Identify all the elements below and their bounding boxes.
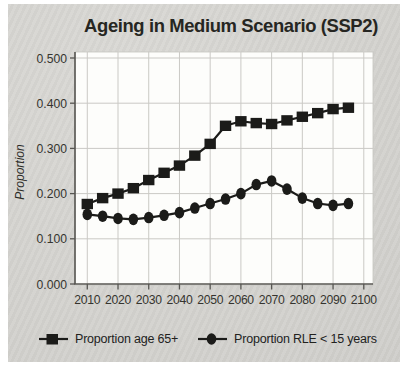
y-tick-label: 0.500 <box>37 52 68 66</box>
circle-marker <box>298 192 308 204</box>
square-marker <box>281 115 292 125</box>
square-marker <box>143 175 154 185</box>
square-marker <box>112 188 123 198</box>
legend-label-rle15: Proportion RLE < 15 years <box>234 332 377 346</box>
circle-marker-icon <box>197 332 228 346</box>
square-marker <box>343 103 354 113</box>
square-marker <box>189 150 200 160</box>
circle-marker <box>205 198 215 210</box>
circle-marker <box>267 175 277 187</box>
x-tick-label: 2050 <box>197 293 223 307</box>
circle-marker <box>282 183 292 195</box>
y-axis-title: Proportion <box>13 144 27 199</box>
y-tick-label: 0.000 <box>37 278 68 292</box>
square-marker <box>204 139 215 149</box>
y-tick-label: 0.400 <box>37 97 68 111</box>
circle-marker <box>82 209 92 221</box>
circle-marker <box>144 212 154 224</box>
y-tick-label: 0.200 <box>37 187 68 201</box>
x-tick-label: 2080 <box>289 293 315 307</box>
square-marker <box>312 108 323 118</box>
legend-item-rle15: Proportion RLE < 15 years <box>197 332 377 346</box>
circle-marker <box>190 202 200 214</box>
y-tick-label: 0.300 <box>37 142 68 156</box>
square-marker <box>327 104 338 114</box>
chart-title: Ageing in Medium Scenario (SSP2) <box>75 15 387 37</box>
circle-marker <box>251 179 261 191</box>
circle-marker <box>328 200 338 212</box>
circle-marker <box>159 209 169 221</box>
x-tick-label: 2040 <box>166 293 192 307</box>
x-tick-label: 2100 <box>351 293 377 307</box>
circle-marker <box>175 207 185 219</box>
x-tick-label: 2020 <box>105 293 131 307</box>
square-marker <box>174 160 185 170</box>
square-marker <box>297 112 308 122</box>
square-marker <box>158 168 169 178</box>
square-marker <box>220 121 231 131</box>
circle-marker <box>129 214 139 226</box>
circle-marker <box>344 198 354 210</box>
circle-marker <box>98 210 108 222</box>
square-marker <box>235 116 246 126</box>
x-tick-label: 2090 <box>320 293 346 307</box>
circle-marker <box>313 198 323 210</box>
y-tick-label: 0.100 <box>37 232 68 246</box>
x-tick-label: 2010 <box>74 293 100 307</box>
x-tick-label: 2070 <box>259 293 285 307</box>
square-marker <box>82 199 93 209</box>
ageing-chart-plot: 0.0000.1000.2000.3000.4000.5002010202020… <box>0 0 408 378</box>
square-marker-icon <box>38 332 69 346</box>
legend-item-age65: Proportion age 65+ <box>38 332 178 346</box>
square-marker <box>266 119 277 129</box>
legend-label-age65: Proportion age 65+ <box>75 332 178 346</box>
square-marker <box>251 118 262 128</box>
x-tick-label: 2030 <box>136 293 162 307</box>
x-tick-label: 2060 <box>228 293 254 307</box>
circle-marker <box>113 213 123 225</box>
square-marker <box>97 193 108 203</box>
plot-area <box>75 52 373 285</box>
circle-marker <box>236 188 246 200</box>
circle-marker <box>221 193 231 205</box>
chart-legend: Proportion age 65+ Proportion RLE < 15 y… <box>38 329 398 349</box>
square-marker <box>128 183 139 193</box>
